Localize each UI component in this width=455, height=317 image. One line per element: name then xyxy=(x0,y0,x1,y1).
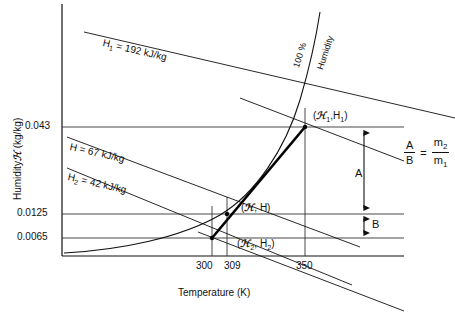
ratio-right-fraction: m2 m1 xyxy=(432,136,450,169)
x-tick-label-300: 300 xyxy=(196,261,213,271)
state-mix-label: (ℋ, H) xyxy=(241,203,270,213)
enthalpy-line-through-state1 xyxy=(240,98,404,161)
ratio-equals-sign: = xyxy=(415,147,431,159)
state-2-label: (ℋ2, H2) xyxy=(237,239,274,251)
ratio-m1-symbol: m xyxy=(434,154,443,166)
y-tick-label-0043: 0.043 xyxy=(25,121,50,131)
y-axis-title-symbol: ℋ xyxy=(12,151,23,161)
enthalpy-line-lower-extension xyxy=(198,232,404,311)
state-mix-label-mid: , H) xyxy=(254,202,270,213)
state-mix-label-symbol: ℋ xyxy=(244,202,254,213)
psychrometric-chart-figure: Humidityℋ (kg/kg) 0.043 0.0125 0.0065 30… xyxy=(0,0,455,317)
ratio-m1-subscript: 1 xyxy=(443,160,447,169)
segment-b-label: B xyxy=(372,219,379,230)
state-2-label-mid: , H xyxy=(254,238,267,249)
x-axis-title: Temperature (K) xyxy=(178,288,250,298)
ratio-m2-subscript: 2 xyxy=(443,142,447,151)
x-tick-label-309: 309 xyxy=(224,261,241,271)
y-tick-label-00125: 0.0125 xyxy=(17,208,48,218)
ratio-numerator-a: A xyxy=(404,139,415,152)
segment-a-label: A xyxy=(355,168,362,179)
y-axis-title-text: Humidity xyxy=(12,161,23,200)
state-1-label: (ℋ1,H1) xyxy=(313,111,348,123)
state-2-label-close: ) xyxy=(271,238,274,249)
state-1-label-close: ) xyxy=(344,110,347,121)
ratio-left-fraction: A B xyxy=(404,139,415,166)
state-2-marker xyxy=(210,236,214,240)
state-1-label-mid: ,H xyxy=(330,110,340,121)
ratio-denominator-m1: m1 xyxy=(432,152,450,169)
y-axis-title: Humidityℋ (kg/kg) xyxy=(13,118,23,200)
state-2-label-symbol: ℋ xyxy=(240,238,250,249)
ratio-numerator-m2: m2 xyxy=(432,136,450,152)
state-mix-marker xyxy=(225,212,229,216)
y-axis-title-units: (kg/kg) xyxy=(12,118,23,149)
enthalpy-lines xyxy=(67,32,455,311)
state-1-label-symbol: ℋ xyxy=(316,110,326,121)
ratio-m2-symbol: m xyxy=(434,136,443,148)
ratio-equation: A B = m2 m1 xyxy=(404,136,449,169)
y-tick-label-00065: 0.0065 xyxy=(17,232,48,242)
ratio-denominator-b: B xyxy=(404,152,415,166)
state-1-marker xyxy=(303,125,307,129)
x-tick-label-350: 350 xyxy=(296,261,313,271)
